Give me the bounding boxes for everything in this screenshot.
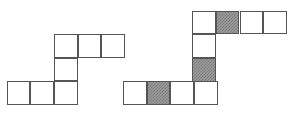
right-shape-cell-r3c0 (123, 81, 147, 105)
right-shape-cell-r3c2 (170, 81, 194, 105)
right-shape-cell-r1c3 (192, 34, 216, 58)
right-shape-cell-r2c3 (192, 58, 216, 82)
right-shape-cell-r3c1 (147, 81, 171, 105)
right-shape-cell-r0c5 (240, 11, 264, 35)
right-shape (0, 0, 302, 121)
right-shape-cell-r0c3 (192, 11, 216, 35)
polyomino-figure (0, 0, 302, 121)
right-shape-cell-r3c3 (194, 81, 218, 105)
right-shape-cell-r0c6 (263, 11, 287, 35)
right-shape-cell-r0c4 (216, 11, 240, 35)
